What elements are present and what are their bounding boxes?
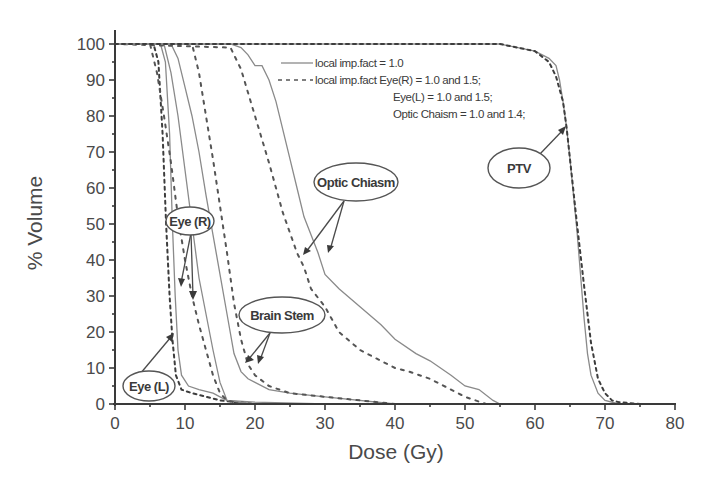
arrow-ptv [539, 130, 563, 155]
y-tick-label: 100 [77, 35, 105, 54]
arrow-eye-l [140, 337, 171, 374]
arrow-optic-chiasm-2 [330, 201, 344, 250]
dvh-chart: 01020304050607080 0102030405060708090100… [0, 0, 710, 494]
x-ticks: 01020304050607080 [110, 404, 684, 433]
arrow-optic-chiasm-1 [306, 201, 344, 252]
annotation-eye-r-label: Eye (R) [169, 214, 210, 229]
y-tick-label: 70 [86, 143, 105, 162]
annotation-eye-l: Eye (L) [123, 371, 175, 401]
arrowhead-icon [327, 245, 334, 253]
x-tick-label: 40 [386, 414, 405, 433]
x-tick-label: 80 [666, 414, 685, 433]
y-tick-label: 20 [86, 323, 105, 342]
y-ticks: 0102030405060708090100 [77, 35, 115, 414]
x-tick-label: 30 [316, 414, 335, 433]
annotation-brain-stem-label: Brain Stem [250, 308, 314, 323]
annotation-brain-stem: Brain Stem [239, 297, 325, 333]
y-tick-label: 30 [86, 287, 105, 306]
y-tick-label: 90 [86, 71, 105, 90]
annotation-optic-chiasm: Optic Chiasm [314, 163, 398, 201]
annotation-eye-l-label: Eye (L) [129, 379, 169, 394]
y-tick-label: 10 [86, 359, 105, 378]
y-tick-label: 0 [96, 395, 105, 414]
x-tick-label: 60 [526, 414, 545, 433]
x-tick-label: 50 [456, 414, 475, 433]
y-tick-label: 50 [86, 215, 105, 234]
dvh-curve [115, 44, 325, 404]
y-tick-label: 40 [86, 251, 105, 270]
arrow-eye-r-2 [191, 233, 193, 296]
dvh-curve [115, 44, 395, 404]
legend-line-eye-l: Eye(L) = 1.0 and 1.5; [393, 91, 493, 103]
arrow-brain-stem-2 [260, 333, 270, 360]
y-axis-title: % Volume [23, 176, 46, 271]
legend-solid-label: local imp.fact = 1.0 [315, 57, 403, 69]
annotation-optic-chiasm-label: Optic Chiasm [317, 175, 395, 190]
x-tick-label: 0 [110, 414, 119, 433]
arrowhead-icon [178, 278, 185, 287]
x-axis-title: Dose (Gy) [348, 440, 444, 463]
annotation-eye-r: Eye (R) [166, 207, 214, 235]
y-tick-label: 80 [86, 107, 105, 126]
legend: local imp.fact = 1.0 local imp.fact Eye(… [278, 57, 525, 120]
y-tick-label: 60 [86, 179, 105, 198]
arrowhead-icon [303, 247, 311, 255]
annotation-ptv: PTV [488, 148, 550, 188]
legend-line-optic-chiasm: Optic Chaism = 1.0 and 1.4; [393, 108, 525, 120]
legend-dashed-label: local imp.fact Eye(R) = 1.0 and 1.5; [315, 74, 481, 86]
arrowhead-icon [257, 355, 264, 364]
x-tick-label: 20 [246, 414, 265, 433]
dvh-curve [115, 44, 395, 404]
arrowhead-icon [189, 291, 197, 300]
axes: 01020304050607080 0102030405060708090100 [77, 30, 685, 433]
x-tick-label: 70 [596, 414, 615, 433]
x-tick-label: 10 [176, 414, 195, 433]
annotation-ptv-label: PTV [507, 161, 532, 176]
